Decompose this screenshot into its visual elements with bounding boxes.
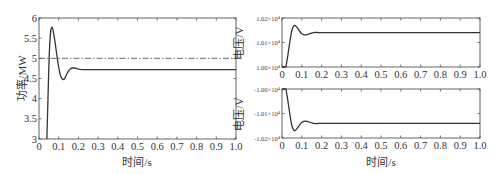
y-tick-label: 5.5 bbox=[24, 33, 37, 44]
voltage-positive-y-axis-label: 电压/V bbox=[233, 26, 245, 59]
x-tick-label: 0.3 bbox=[335, 140, 348, 151]
voltage-positive-chart: 00.10.20.30.40.50.60.70.80.91.01.00×10⁴1… bbox=[233, 15, 487, 81]
power-plot-frame bbox=[39, 18, 236, 139]
x-tick-label: 0.3 bbox=[335, 69, 348, 80]
power-y-axis-label: 功率/MW bbox=[15, 55, 28, 101]
x-tick-label: 0.9 bbox=[454, 140, 467, 151]
y-tick-label: -1.02×10⁴ bbox=[254, 135, 281, 142]
power-chart: 00.10.20.30.40.50.60.70.80.91.033.544.55… bbox=[15, 13, 243, 169]
y-tick-label: 6 bbox=[32, 13, 37, 24]
x-tick-label: 0.5 bbox=[374, 140, 387, 151]
x-tick-label: 1.0 bbox=[229, 141, 242, 152]
y-tick-label: -1.01×10⁴ bbox=[254, 110, 281, 117]
x-tick-label: 0.8 bbox=[434, 69, 447, 80]
y-tick-label: 3.5 bbox=[24, 113, 37, 124]
y-tick-label: 4 bbox=[32, 93, 38, 104]
x-tick-label: 0.5 bbox=[131, 141, 144, 152]
x-tick-label: 1.0 bbox=[473, 69, 486, 80]
x-tick-label: 0.6 bbox=[394, 140, 407, 151]
x-tick-label: 0.2 bbox=[315, 140, 328, 151]
x-tick-label: 0.7 bbox=[414, 140, 427, 151]
x-tick-label: 0.6 bbox=[151, 141, 164, 152]
x-tick-label: 0.5 bbox=[374, 69, 387, 80]
x-tick-label: 0.2 bbox=[315, 69, 328, 80]
x-tick-label: 1.0 bbox=[473, 140, 486, 151]
voltage-positive-curve bbox=[282, 25, 480, 67]
voltage-positive-axis-ticks: 00.10.20.30.40.50.60.70.80.91.01.00×10⁴1… bbox=[256, 15, 486, 81]
power-axis-ticks: 00.10.20.30.40.50.60.70.80.91.033.544.55… bbox=[24, 13, 243, 153]
x-tick-label: 0.6 bbox=[394, 69, 407, 80]
voltage-negative-chart: 00.10.20.30.40.50.60.70.80.91.0-1.00×10⁴… bbox=[233, 86, 487, 169]
x-tick-label: 0.4 bbox=[355, 140, 369, 151]
power-curve bbox=[47, 27, 236, 139]
power-x-axis-label: 时间/s bbox=[122, 156, 151, 168]
x-tick-label: 0.1 bbox=[295, 140, 308, 151]
voltage-negative-y-axis-label: 电压/V bbox=[233, 97, 245, 130]
voltage-negative-plot-frame bbox=[282, 89, 480, 138]
x-tick-label: 0.4 bbox=[355, 69, 369, 80]
y-tick-label: 1.02×10⁴ bbox=[256, 15, 281, 22]
y-tick-label: 1.00×10⁴ bbox=[256, 64, 281, 71]
x-tick-label: 0.9 bbox=[210, 141, 223, 152]
y-tick-label: -1.00×10⁴ bbox=[254, 86, 281, 93]
x-tick-label: 0.1 bbox=[52, 141, 65, 152]
voltage-negative-axis-ticks: 00.10.20.30.40.50.60.70.80.91.0-1.00×10⁴… bbox=[254, 86, 487, 152]
x-tick-label: 0.7 bbox=[414, 69, 427, 80]
x-tick-label: 0.2 bbox=[72, 141, 85, 152]
voltage-negative-curve bbox=[282, 89, 480, 131]
figure: 00.10.20.30.40.50.60.70.80.91.033.544.55… bbox=[0, 0, 498, 174]
x-tick-label: 0.1 bbox=[295, 69, 308, 80]
x-tick-label: 0.7 bbox=[170, 141, 183, 152]
voltage-positive-plot-frame bbox=[282, 18, 480, 67]
y-tick-label: 3 bbox=[32, 134, 37, 145]
y-tick-label: 5 bbox=[32, 53, 37, 64]
voltage-x-axis-label: 时间/s bbox=[366, 156, 395, 168]
x-tick-label: 0.3 bbox=[92, 141, 105, 152]
x-tick-label: 0 bbox=[279, 69, 284, 80]
x-tick-label: 0 bbox=[279, 140, 284, 151]
x-tick-label: 0.8 bbox=[434, 140, 447, 151]
x-tick-label: 0 bbox=[36, 141, 41, 152]
y-tick-label: 1.01×10⁴ bbox=[256, 39, 281, 46]
x-tick-label: 0.9 bbox=[454, 69, 467, 80]
x-tick-label: 0.8 bbox=[190, 141, 203, 152]
x-tick-label: 0.4 bbox=[111, 141, 125, 152]
